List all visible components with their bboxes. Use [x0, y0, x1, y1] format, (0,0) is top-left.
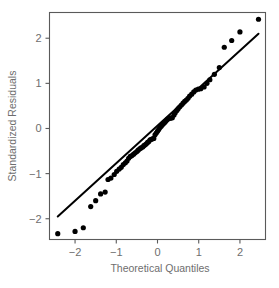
qq-plot-canvas: −2−1012 −2−1012 Theoretical Quantiles St… — [0, 0, 279, 288]
data-point — [55, 231, 60, 236]
data-point — [98, 191, 103, 196]
x-tick-label: 2 — [237, 246, 243, 258]
data-point — [256, 17, 261, 22]
y-axis-label: Standardized Residuals — [6, 71, 18, 182]
y-tick-label: 2 — [35, 32, 41, 44]
x-tick-label: −1 — [110, 246, 123, 258]
data-point — [222, 45, 227, 50]
x-tick-label: −2 — [69, 246, 82, 258]
data-point — [88, 204, 93, 209]
y-tick-label: 1 — [35, 77, 41, 89]
x-tick-label: 0 — [154, 246, 160, 258]
data-point — [81, 225, 86, 230]
y-tick-label: −1 — [29, 168, 42, 180]
data-point — [237, 29, 242, 34]
data-point — [207, 77, 212, 82]
data-point — [72, 229, 77, 234]
x-tick-label: 1 — [196, 246, 202, 258]
data-point — [229, 38, 234, 43]
data-point — [212, 72, 217, 77]
qq-plot-figure: −2−1012 −2−1012 Theoretical Quantiles St… — [0, 0, 279, 288]
y-tick-label: 0 — [35, 122, 41, 134]
data-point — [217, 65, 222, 70]
y-tick-label: −2 — [29, 213, 42, 225]
data-point — [93, 198, 98, 203]
data-point — [103, 190, 108, 195]
x-axis-label: Theoretical Quantiles — [110, 262, 209, 274]
